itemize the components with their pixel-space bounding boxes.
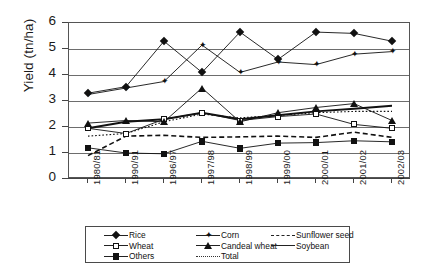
- x-tick-label: 2002/03: [395, 150, 406, 185]
- data-point-marker: [199, 138, 206, 145]
- y-tick-label: 1: [26, 143, 56, 158]
- x-tick: [277, 178, 278, 183]
- legend-label: Soybean: [296, 241, 329, 251]
- data-point-marker: [350, 100, 358, 107]
- legend-label: Corn: [221, 230, 239, 240]
- legend-column: ✦CornCandeal wheatTotal: [196, 230, 277, 262]
- data-point-marker: [84, 120, 92, 127]
- x-tick: [315, 178, 316, 183]
- x-tick: [87, 178, 88, 183]
- x-tick-label: 1997/98: [205, 150, 216, 185]
- data-point-marker: [122, 117, 130, 124]
- series-line-rice: [88, 32, 392, 93]
- legend-column: Sunflower seedSoybean: [271, 230, 354, 251]
- data-point-marker: ✦: [275, 59, 282, 66]
- legend-line-sample: [271, 235, 295, 236]
- legend-key-icon: [196, 241, 220, 251]
- data-point-marker: ✦: [237, 69, 244, 76]
- yield-line-chart: Yield (tn/ha) 0123456 ✦✦✦✦✦✦✦✦✦ 1980/811…: [0, 0, 428, 276]
- legend-marker-icon: [204, 242, 212, 249]
- data-point-marker: [199, 110, 205, 116]
- data-point-marker: [274, 109, 282, 116]
- x-tick-label: 1980/81: [91, 150, 102, 185]
- data-point-marker: ✦: [161, 78, 168, 85]
- legend-item-rice[interactable]: Rice: [104, 230, 154, 241]
- data-point-marker: [313, 139, 320, 146]
- data-point-marker: [388, 117, 396, 124]
- y-tick-label: 4: [26, 65, 56, 80]
- legend-marker-icon: ✦: [205, 232, 212, 239]
- legend-label: Rice: [129, 230, 146, 240]
- legend-marker-icon: [113, 243, 119, 249]
- x-tick: [125, 178, 126, 183]
- legend-line-sample: [271, 245, 295, 246]
- chart-legend: RiceWheatOthers✦CornCandeal wheatTotalSu…: [85, 226, 350, 263]
- x-tick-label: 1999/00: [281, 150, 292, 185]
- legend-label: Sunflower seed: [296, 230, 354, 240]
- x-tick: [391, 178, 392, 183]
- legend-marker-icon: [112, 231, 120, 239]
- legend-item-wheat[interactable]: Wheat: [104, 241, 154, 252]
- y-tick-label: 2: [26, 117, 56, 132]
- data-point-marker: [160, 118, 168, 125]
- legend-key-icon: [271, 241, 295, 251]
- legend-item-others[interactable]: Others: [104, 251, 154, 262]
- legend-key-icon: [271, 230, 295, 240]
- data-point-marker: ✦: [313, 61, 320, 68]
- data-point-marker: ✦: [389, 48, 396, 55]
- x-tick-label: 1990/91: [129, 150, 140, 185]
- legend-label: Wheat: [129, 241, 153, 251]
- x-tick-label: 1998/99: [243, 150, 254, 185]
- x-tick: [201, 178, 202, 183]
- legend-item-candeal-wheat[interactable]: Candeal wheat: [196, 241, 277, 252]
- legend-item-total[interactable]: Total: [196, 251, 277, 262]
- legend-key-icon: [104, 251, 128, 261]
- data-point-marker: [275, 140, 282, 147]
- data-point-marker: [312, 104, 320, 111]
- data-point-marker: [351, 121, 357, 127]
- data-point-marker: [198, 85, 206, 92]
- data-point-marker: ✦: [351, 51, 358, 58]
- x-tick-label: 2001/02: [357, 150, 368, 185]
- y-tick-label: 0: [26, 169, 56, 184]
- legend-item-sunflower-seed[interactable]: Sunflower seed: [271, 230, 354, 241]
- legend-marker-icon: [113, 253, 120, 260]
- legend-key-icon: [104, 241, 128, 251]
- data-point-marker: [313, 111, 319, 117]
- x-tick-label: 2000/01: [319, 150, 330, 185]
- x-tick: [239, 178, 240, 183]
- legend-line-sample: [196, 256, 220, 257]
- legend-label: Others: [129, 251, 154, 261]
- data-point-marker: [236, 118, 244, 125]
- legend-label: Candeal wheat: [221, 241, 277, 251]
- data-point-marker: [123, 131, 129, 137]
- legend-key-icon: [104, 230, 128, 240]
- data-point-marker: ✦: [199, 42, 206, 49]
- legend-column: RiceWheatOthers: [104, 230, 154, 262]
- data-point-marker: [389, 139, 396, 146]
- legend-label: Total: [221, 251, 239, 261]
- legend-item-soybean[interactable]: Soybean: [271, 241, 354, 252]
- y-tick-label: 6: [26, 13, 56, 28]
- legend-item-corn[interactable]: ✦Corn: [196, 230, 277, 241]
- x-tick: [353, 178, 354, 183]
- data-point-marker: [389, 125, 395, 131]
- legend-key-icon: ✦: [196, 230, 220, 240]
- data-point-marker: ✦: [123, 85, 130, 92]
- y-tick-label: 3: [26, 91, 56, 106]
- x-tick: [163, 178, 164, 183]
- x-tick-label: 1996/97: [167, 150, 178, 185]
- data-point-marker: ✦: [85, 91, 92, 98]
- data-point-marker: [351, 138, 358, 145]
- legend-key-icon: [196, 251, 220, 261]
- y-tick-label: 5: [26, 39, 56, 54]
